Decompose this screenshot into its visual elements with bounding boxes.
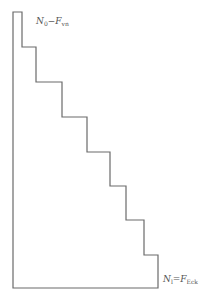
staircase-diagram (0, 0, 212, 302)
label-bottom-n: N (163, 274, 171, 284)
label-bottom-f-sub: Eck (187, 278, 198, 285)
staircase-outline (13, 12, 158, 288)
label-top-f-sub: vn (62, 20, 69, 27)
label-top-n: N (36, 16, 44, 26)
label-top: N0−Fvn (36, 16, 69, 27)
label-bottom: Nl=FEck (163, 274, 198, 285)
